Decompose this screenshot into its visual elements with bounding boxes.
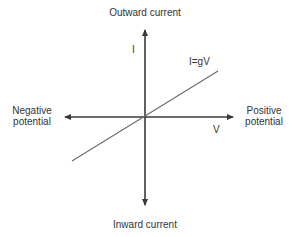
y-axis-label: I	[132, 44, 135, 55]
negative-label-line1: Negative	[6, 105, 58, 116]
negative-potential-label: Negative potential	[6, 105, 58, 127]
negative-label-line2: potential	[6, 116, 58, 127]
x-axis-label: V	[213, 124, 220, 135]
positive-label-line1: Positive	[238, 105, 290, 116]
positive-label-line2: potential	[238, 116, 290, 127]
outward-current-label: Outward current	[95, 7, 195, 18]
iv-diagram: Outward current I I=gV Negative potentia…	[0, 0, 294, 237]
inward-current-label: Inward current	[95, 219, 195, 230]
line-equation-label: I=gV	[189, 56, 210, 67]
positive-potential-label: Positive potential	[238, 105, 290, 127]
